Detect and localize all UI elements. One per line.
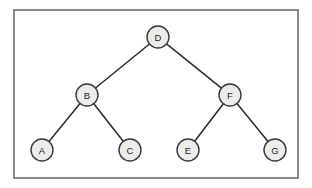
tree-node-label-b: B <box>84 90 90 101</box>
tree-diagram-canvas: DBFACEG <box>0 0 312 188</box>
tree-node-label-e: E <box>185 145 191 156</box>
tree-node-c[interactable]: C <box>119 139 141 161</box>
tree-node-e[interactable]: E <box>177 139 199 161</box>
tree-node-label-c: C <box>127 145 134 156</box>
tree-node-label-f: F <box>227 90 233 101</box>
tree-node-label-d: D <box>155 32 162 43</box>
tree-node-d[interactable]: D <box>147 26 169 48</box>
tree-node-label-a: A <box>39 145 46 156</box>
tree-node-label-g: G <box>271 145 278 156</box>
tree-node-b[interactable]: B <box>76 84 98 106</box>
tree-node-f[interactable]: F <box>219 84 241 106</box>
binary-tree-svg: DBFACEG <box>0 0 312 188</box>
tree-node-a[interactable]: A <box>31 139 53 161</box>
tree-node-g[interactable]: G <box>264 139 286 161</box>
